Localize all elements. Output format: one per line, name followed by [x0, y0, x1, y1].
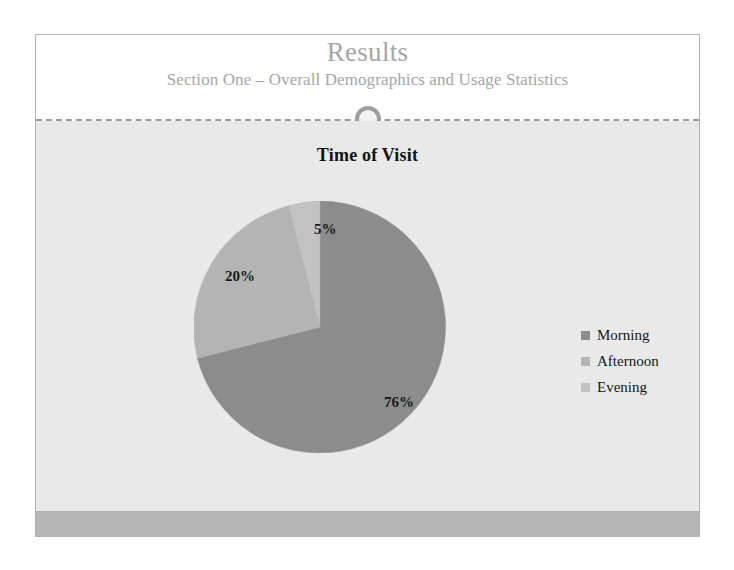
pie-chart-svg: [194, 201, 446, 453]
pie-value-label-evening: 5%: [314, 221, 337, 238]
chart-title: Time of Visit: [36, 145, 699, 166]
pie-chart: 76% 20% 5%: [194, 201, 446, 453]
legend-swatch-evening: [581, 383, 590, 392]
pie-value-label-morning: 76%: [384, 394, 414, 411]
presentation-slide: Results Section One – Overall Demographi…: [35, 34, 700, 537]
legend-label-afternoon: Afternoon: [597, 354, 659, 369]
screenshot-canvas: Results Section One – Overall Demographi…: [0, 0, 734, 570]
legend-swatch-afternoon: [581, 357, 590, 366]
pie-value-label-afternoon: 20%: [225, 268, 255, 285]
legend-item-afternoon[interactable]: Afternoon: [581, 350, 693, 373]
legend-label-evening: Evening: [597, 380, 647, 395]
slide-footer-band: [36, 511, 699, 536]
legend-item-morning[interactable]: Morning: [581, 324, 693, 347]
page-title: Results: [36, 35, 699, 68]
legend-swatch-morning: [581, 331, 590, 340]
chart-legend: Morning Afternoon Evening: [581, 324, 693, 402]
legend-label-morning: Morning: [597, 328, 650, 343]
slide-subtitle: Section One – Overall Demographics and U…: [36, 68, 699, 90]
legend-item-evening[interactable]: Evening: [581, 376, 693, 399]
slide-body: Time of Visit 76% 20% 5%: [36, 121, 699, 513]
